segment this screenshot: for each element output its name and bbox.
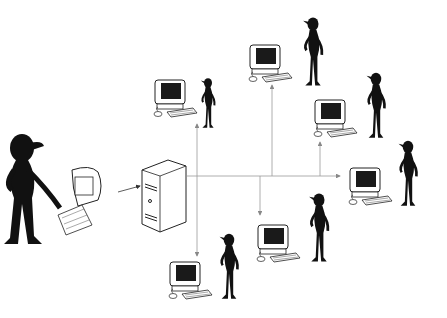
admin-workstation xyxy=(58,167,101,235)
server-tower xyxy=(142,160,186,232)
client-2 xyxy=(249,17,322,85)
client-3 xyxy=(314,73,385,138)
admin-user xyxy=(4,134,60,244)
network-illustration xyxy=(0,0,447,318)
client-4 xyxy=(349,141,417,206)
client-6 xyxy=(169,234,238,299)
network-diagram xyxy=(0,0,447,318)
client-1 xyxy=(154,78,215,128)
client-5 xyxy=(257,193,328,262)
